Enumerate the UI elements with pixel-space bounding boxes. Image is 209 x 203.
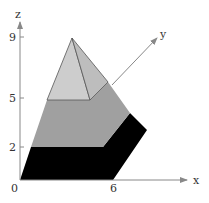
stacked-solid-diagram: z y x 0 9 5 2 6 bbox=[0, 0, 209, 203]
origin-label: 0 bbox=[11, 182, 18, 195]
x-tick-label-6: 6 bbox=[110, 182, 117, 195]
y-axis bbox=[112, 38, 157, 85]
z-tick-label-5: 5 bbox=[9, 92, 16, 105]
z-axis-label: z bbox=[15, 8, 21, 21]
z-tick-label-2: 2 bbox=[9, 141, 16, 154]
x-axis-label: x bbox=[193, 174, 200, 187]
z-tick-label-9: 9 bbox=[9, 31, 16, 44]
y-axis-label: y bbox=[159, 28, 167, 41]
